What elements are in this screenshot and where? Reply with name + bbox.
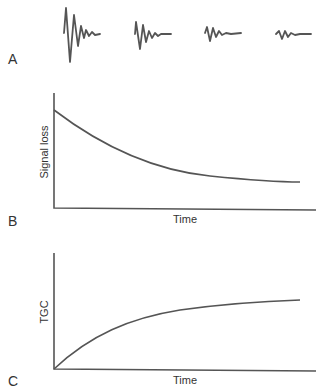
panel-a: A bbox=[8, 8, 311, 67]
figure: A B Signal loss Time C TGC Time bbox=[0, 0, 319, 390]
tgc-curve bbox=[54, 300, 300, 369]
panel-letter-c: C bbox=[8, 373, 18, 389]
echo-waveform-3 bbox=[205, 27, 241, 41]
y-axis-label-c: TGC bbox=[38, 300, 50, 323]
signal-loss-curve bbox=[54, 110, 300, 182]
y-axis-label-b: Signal loss bbox=[38, 125, 50, 179]
panel-letter-b: B bbox=[8, 213, 17, 229]
echo-waveform-1 bbox=[64, 8, 100, 62]
echo-waveform-2 bbox=[135, 22, 171, 49]
panel-letter-a: A bbox=[8, 51, 18, 67]
panel-c: C TGC Time bbox=[8, 253, 316, 389]
x-axis-label-b: Time bbox=[173, 213, 197, 225]
x-axis-label-c: Time bbox=[173, 374, 197, 386]
panel-b: B Signal loss Time bbox=[8, 93, 316, 229]
echo-waveform-4 bbox=[276, 31, 311, 39]
y-axis-c bbox=[54, 253, 316, 371]
y-axis-b bbox=[54, 93, 316, 210]
